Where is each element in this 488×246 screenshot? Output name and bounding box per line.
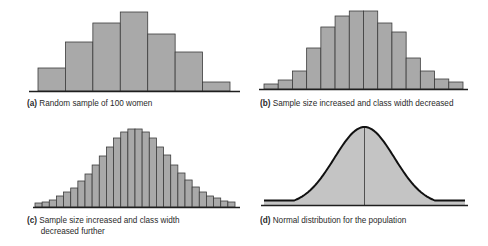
histogram-bar	[214, 198, 221, 207]
histogram-bar	[128, 129, 135, 207]
histogram-bar	[349, 11, 363, 89]
histogram-bar	[171, 165, 178, 207]
histogram-bar	[178, 173, 185, 207]
caption-b: (b) Sample size increased and class widt…	[260, 97, 453, 108]
caption-d-text: Normal distribution for the population	[273, 214, 407, 225]
caption-b-prefix: (b)	[260, 97, 270, 108]
histogram-panel-c	[33, 129, 240, 208]
histogram-bar	[420, 71, 434, 89]
histogram-bar	[156, 147, 163, 207]
histogram-bar	[292, 71, 306, 89]
histogram-bar	[149, 138, 156, 207]
histogram-bar	[278, 80, 292, 89]
histogram-bar	[114, 138, 121, 207]
histogram-bar	[449, 82, 463, 89]
histogram-bar	[35, 203, 42, 207]
caption-a-prefix: (a)	[27, 97, 37, 108]
histogram-bar	[435, 79, 449, 89]
histogram-bar	[99, 156, 106, 207]
histogram-bar	[378, 23, 392, 89]
histogram-bar	[121, 132, 128, 207]
caption-d-prefix: (d)	[260, 214, 270, 225]
histogram-bar	[148, 34, 175, 91]
normal-curve-panel-d	[261, 127, 468, 206]
histogram-bar	[335, 16, 349, 89]
histogram-bar	[199, 192, 206, 207]
histogram-bar	[42, 202, 49, 207]
histogram-bar	[264, 84, 278, 89]
caption-c-prefix: (c)	[27, 214, 37, 225]
histogram-bar	[206, 196, 213, 207]
histogram-bar	[49, 200, 56, 207]
histogram-panel-b	[259, 11, 468, 90]
caption-c-line2: decreased further	[27, 225, 105, 236]
histogram-bar	[192, 187, 199, 207]
caption-d: (d) Normal distribution for the populati…	[260, 214, 406, 225]
histogram-bar	[364, 11, 378, 89]
histogram-bar	[93, 23, 120, 91]
histogram-bar	[175, 52, 202, 91]
histogram-bar	[221, 201, 228, 207]
histogram-bar	[92, 165, 99, 207]
figure-panels	[0, 0, 488, 246]
histogram-bar	[106, 147, 113, 207]
histogram-panel-a	[29, 12, 240, 92]
histogram-bar	[321, 27, 335, 89]
histogram-bar	[135, 129, 142, 207]
caption-a-text: Random sample of 100 women	[39, 97, 152, 108]
histogram-bar	[307, 48, 321, 89]
histogram-bar	[78, 181, 85, 207]
caption-b-text: Sample size increased and class width de…	[273, 97, 454, 108]
histogram-bar	[38, 68, 65, 91]
histogram-bar	[85, 174, 92, 207]
caption-a: (a) Random sample of 100 women	[27, 97, 152, 108]
histogram-bar	[164, 155, 171, 207]
histogram-bar	[56, 196, 63, 207]
histogram-bar	[392, 32, 406, 89]
caption-c-line1: Sample size increased and class width	[39, 214, 179, 225]
histogram-bar	[120, 12, 147, 91]
histogram-bar	[65, 42, 92, 91]
histogram-bar	[71, 188, 78, 207]
histogram-bar	[406, 58, 420, 89]
histogram-bar	[203, 82, 230, 91]
histogram-bar	[228, 202, 235, 207]
caption-c: (c) Sample size increased and class widt…	[27, 214, 180, 236]
histogram-bar	[64, 192, 71, 207]
histogram-bar	[185, 180, 192, 207]
histogram-bar	[142, 132, 149, 207]
